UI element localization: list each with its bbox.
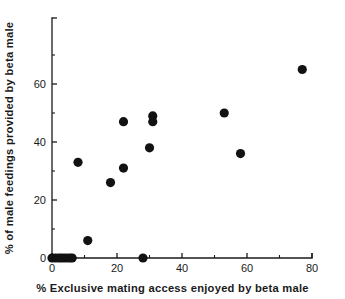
data-point [106, 178, 115, 187]
x-axis-title: % Exclusive mating access enjoyed by bet… [36, 282, 309, 294]
data-point [236, 149, 245, 158]
x-tick-label: 60 [241, 262, 253, 274]
data-point [148, 111, 157, 120]
data-point [298, 65, 307, 74]
plot-canvas: 0204060800204060 % Exclusive mating acce… [0, 0, 345, 299]
data-point [119, 164, 128, 173]
x-tick-label: 0 [49, 262, 55, 274]
x-tick-label: 20 [111, 262, 123, 274]
data-point [220, 108, 229, 117]
scatter-plot-figure: 0204060800204060 % Exclusive mating acce… [0, 0, 345, 299]
data-point [145, 143, 154, 152]
data-point [83, 236, 92, 245]
y-tick-label: 40 [34, 136, 46, 148]
x-tick-label: 80 [306, 262, 318, 274]
data-point [73, 158, 82, 167]
data-point [138, 253, 147, 262]
x-tick-label: 40 [176, 262, 188, 274]
data-point [119, 117, 128, 126]
y-tick-label: 0 [40, 252, 46, 264]
y-axis-title: % of male feedings provided by beta male [3, 22, 15, 255]
y-tick-label: 60 [34, 78, 46, 90]
y-tick-label: 20 [34, 194, 46, 206]
data-point [68, 253, 77, 262]
